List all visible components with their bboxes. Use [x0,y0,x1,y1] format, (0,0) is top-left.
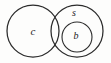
set-label-s: s [72,7,76,18]
set-diagram: c s b [0,0,111,63]
set-diagram-canvas: c s b [0,0,111,63]
set-label-c: c [31,25,36,37]
diagram-background [0,0,111,63]
set-label-b: b [74,30,79,41]
